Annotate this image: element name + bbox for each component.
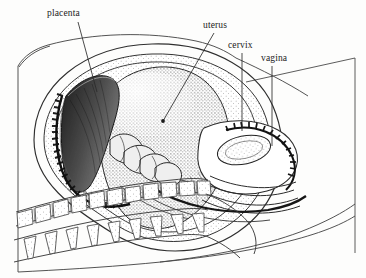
illustration-canvas — [0, 0, 366, 278]
label-uterus: uterus — [203, 21, 227, 31]
label-vagina: vagina — [261, 54, 287, 64]
label-cervix: cervix — [228, 41, 253, 51]
anatomical-figure: placenta uterus cervix vagina — [0, 0, 366, 278]
label-placenta: placenta — [47, 9, 80, 19]
cervical-canal — [198, 121, 298, 194]
